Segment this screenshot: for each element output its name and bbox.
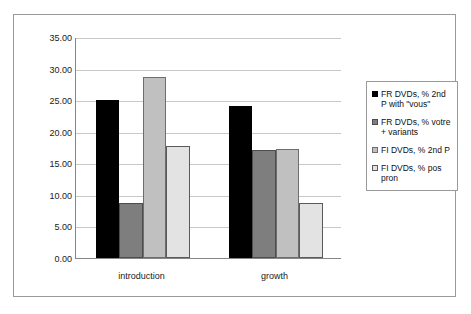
- chart-legend: FR DVDs, % 2nd P with "vous"FR DVDs, % v…: [366, 81, 458, 191]
- legend-entry[interactable]: FI DVDs, % 2nd P: [372, 145, 453, 155]
- bar[interactable]: [166, 146, 190, 258]
- bar[interactable]: [299, 203, 323, 258]
- category-label-introduction: introduction: [75, 271, 208, 281]
- y-axis-tick-label: 5.00: [28, 223, 72, 232]
- y-axis-tick-label: 30.00: [28, 66, 72, 75]
- bar[interactable]: [96, 100, 120, 258]
- legend-swatch-icon: [372, 91, 378, 97]
- y-axis-tick-label: 20.00: [28, 129, 72, 138]
- bar[interactable]: [229, 106, 253, 258]
- bar-group: [209, 38, 342, 258]
- y-axis-tick-label: 10.00: [28, 192, 72, 201]
- bar-group: [76, 38, 209, 258]
- chart-frame: 35.0030.0025.0020.0015.0010.005.000.00 i…: [13, 14, 456, 297]
- bar[interactable]: [276, 149, 300, 258]
- legend-swatch-icon: [372, 165, 378, 171]
- category-label-growth: growth: [208, 271, 341, 281]
- legend-label: FI DVDs, % 2nd P: [381, 145, 453, 155]
- legend-label: FR DVDs, % votre + variants: [381, 117, 453, 137]
- legend-swatch-icon: [372, 147, 378, 153]
- y-axis-tick-label: 15.00: [28, 160, 72, 169]
- bar[interactable]: [119, 203, 143, 258]
- legend-label: FI DVDs, % pos pron: [381, 163, 453, 183]
- bar[interactable]: [143, 77, 167, 258]
- legend-entry[interactable]: FI DVDs, % pos pron: [372, 163, 453, 183]
- bar[interactable]: [252, 150, 276, 258]
- plot-area: [75, 38, 341, 259]
- legend-entry[interactable]: FR DVDs, % votre + variants: [372, 117, 453, 137]
- legend-label: FR DVDs, % 2nd P with "vous": [381, 89, 453, 109]
- y-axis-tick-label: 0.00: [28, 255, 72, 264]
- legend-swatch-icon: [372, 119, 378, 125]
- y-axis-tick-label: 25.00: [28, 97, 72, 106]
- y-axis-tick-label: 35.00: [28, 34, 72, 43]
- legend-entry[interactable]: FR DVDs, % 2nd P with "vous": [372, 89, 453, 109]
- y-axis: 35.0030.0025.0020.0015.0010.005.000.00: [22, 38, 72, 259]
